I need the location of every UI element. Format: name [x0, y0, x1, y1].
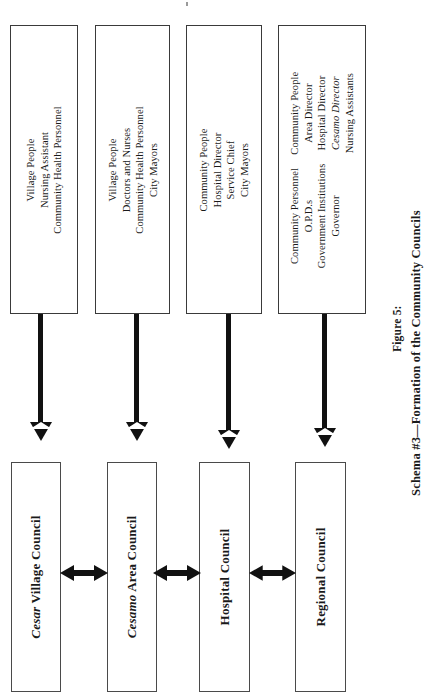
- source-box-3: Community People Hospital Director Servi…: [186, 25, 262, 314]
- source-line: Community Health Personnel: [51, 106, 65, 233]
- source-line: Hospital Director: [210, 128, 224, 211]
- council-rest: Village Council: [28, 515, 43, 606]
- council-italic-prefix: Cesamo: [124, 595, 139, 639]
- source-box-2: Village People Doctors and Nurses Commun…: [95, 25, 170, 314]
- council-label-cesamo-area: Cesamo Area Council: [124, 516, 140, 639]
- scan-speck: [186, 2, 188, 6]
- source-line: Community Personnel: [288, 163, 302, 268]
- source-box-3-lines: Community People Hospital Director Servi…: [197, 128, 252, 211]
- arrow-stem: [226, 314, 231, 438]
- source-line: Doctors and Nurses: [119, 106, 133, 233]
- bidirectional-arrow-1-icon: [60, 563, 108, 583]
- council-rest: Hospital Council: [217, 529, 232, 626]
- source-line: Governor: [329, 163, 343, 268]
- source-box-1: Village People Nursing Assistant Communi…: [10, 25, 78, 314]
- source-line: Community People: [197, 128, 211, 211]
- source-box-4-column-a: Community People Area Director Hospital …: [288, 71, 356, 154]
- arrow-stem: [38, 314, 43, 430]
- council-box-regional: Regional Council: [295, 462, 346, 692]
- arrow-head-flare: [314, 428, 336, 435]
- council-box-cesamo-area: Cesamo Area Council: [107, 462, 157, 692]
- source-line: Government Institutions: [315, 163, 329, 268]
- council-rest: Regional Council: [313, 528, 328, 627]
- source-line: Village People: [105, 106, 119, 233]
- arrow-head-flare: [126, 422, 148, 429]
- council-italic-prefix: Cesar: [28, 607, 43, 639]
- source-box-4-column-b: Community Personnel O.P.D.s Government I…: [288, 163, 343, 268]
- source-line: Nursing Assistant: [37, 106, 51, 233]
- source-line: City Mayors: [238, 128, 252, 211]
- source-line: Hospital Director: [315, 71, 329, 154]
- source-line: Community People: [288, 71, 302, 154]
- council-box-hospital: Hospital Council: [199, 462, 250, 692]
- arrow-stem: [134, 314, 139, 430]
- source-box-2-lines: Village People Doctors and Nurses Commun…: [105, 106, 160, 233]
- council-box-cesar-village: Cesar Village Council: [11, 462, 61, 692]
- figure-canvas: Village People Nursing Assistant Communi…: [0, 0, 425, 692]
- source-line: City Mayors: [146, 106, 160, 233]
- source-line: Area Director: [302, 71, 316, 154]
- source-box-4: Community People Area Director Hospital …: [278, 25, 366, 314]
- bidirectional-arrow-2-icon: [153, 563, 201, 583]
- arrow-stem: [322, 314, 327, 436]
- source-line: Cesamo Director: [329, 71, 343, 154]
- source-line: Nursing Assistants: [342, 71, 356, 154]
- source-line: O.P.D.s: [302, 163, 316, 268]
- arrow-head-flare: [218, 430, 240, 437]
- source-line: Community Health Personnel: [133, 106, 147, 233]
- source-line: Village People: [24, 106, 38, 233]
- source-line: Service Chief: [224, 128, 238, 211]
- council-label-hospital: Hospital Council: [217, 529, 233, 626]
- bidirectional-arrow-3-icon: [249, 563, 296, 583]
- arrow-head-flare: [30, 422, 52, 429]
- council-rest: Area Council: [124, 516, 139, 595]
- figure-caption-title: Schema #3—Formation of the Community Cou…: [409, 210, 424, 496]
- figure-caption-label: Figure 5:: [391, 305, 403, 352]
- council-label-regional: Regional Council: [313, 528, 329, 627]
- source-box-1-lines: Village People Nursing Assistant Communi…: [24, 106, 65, 233]
- council-label-cesar-village: Cesar Village Council: [28, 515, 44, 638]
- source-box-4-lines: Community People Area Director Hospital …: [288, 71, 356, 268]
